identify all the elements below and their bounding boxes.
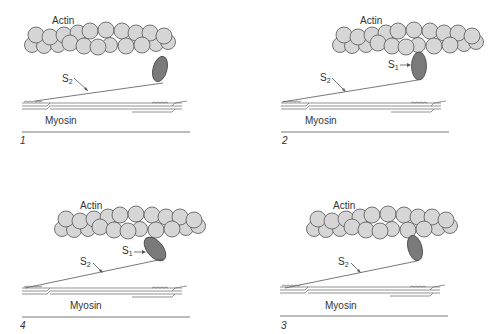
s2-neck xyxy=(282,80,418,102)
myosin-filament xyxy=(280,285,448,316)
panel-number: 3 xyxy=(281,320,287,331)
panel-number: 4 xyxy=(20,320,26,331)
actin-label: Actin xyxy=(360,15,382,26)
myosin-label: Myosin xyxy=(45,115,77,126)
s1-label: S1 xyxy=(388,59,399,71)
s2-label: S2 xyxy=(62,73,73,85)
myosin-filament xyxy=(22,286,190,317)
panel-3: Actin S2 Myosin 3 xyxy=(280,200,458,331)
actin-filament xyxy=(333,22,484,55)
cross-bridge-diagram: Actin S2 Myosin 1 Actin S1 S2 Myosin 2 A… xyxy=(0,0,490,334)
s1-head xyxy=(150,55,170,84)
actin-label: Actin xyxy=(333,200,355,211)
myosin-label: Myosin xyxy=(325,300,357,311)
s2-neck xyxy=(285,261,417,288)
actin-filament xyxy=(25,22,176,55)
s2-neck xyxy=(25,259,163,288)
s2-label: S2 xyxy=(80,256,91,268)
panel-number: 2 xyxy=(281,135,288,146)
s2-neck xyxy=(35,83,163,101)
actin-filament xyxy=(307,206,458,239)
myosin-label: Myosin xyxy=(305,115,337,126)
s2-label: S2 xyxy=(320,72,331,84)
panel-number: 1 xyxy=(20,135,26,146)
panel-4: Actin S1 S2 Myosin 4 xyxy=(20,200,206,331)
actin-label: Actin xyxy=(52,15,74,26)
myosin-label: Myosin xyxy=(70,300,102,311)
actin-label: Actin xyxy=(80,200,102,211)
panel-1: Actin S2 Myosin 1 xyxy=(20,15,190,146)
s2-label: S2 xyxy=(338,256,349,268)
s1-label: S1 xyxy=(122,245,133,257)
actin-filament xyxy=(55,206,206,239)
s1-head xyxy=(412,52,427,80)
panel-2: Actin S1 S2 Myosin 2 xyxy=(281,15,484,146)
